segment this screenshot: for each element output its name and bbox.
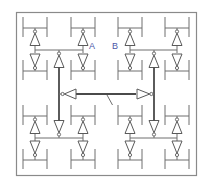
label-b: B — [112, 41, 118, 51]
h-tree-clock-diagram: A B — [0, 0, 213, 190]
bus-tick-mark — [107, 95, 113, 105]
left-bus-buffer — [59, 89, 76, 99]
central-trunk — [59, 68, 154, 121]
right-bus-buffer — [137, 89, 154, 99]
label-a: A — [89, 41, 95, 51]
